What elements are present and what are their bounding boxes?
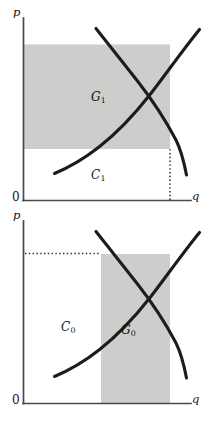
region-label-g0-sub: 0 <box>131 329 136 338</box>
panel-top-plot <box>0 0 215 215</box>
panel-top: p q 0 G1 C1 <box>0 0 215 215</box>
region-label-g1-base: G <box>91 90 101 104</box>
region-label-c1-base: C <box>91 168 100 182</box>
region-label-c0: C0 <box>61 321 75 333</box>
region-label-c0-sub: 0 <box>70 326 75 335</box>
x-axis-label: q <box>192 191 199 203</box>
region-label-g0: G0 <box>121 324 136 336</box>
supply-demand-figure: p q 0 G1 C1 p q 0 C0 G0 <box>0 0 215 429</box>
x-axis-label: q <box>192 394 199 406</box>
region-label-g1-sub: 1 <box>101 96 106 105</box>
region-label-c1-sub: 1 <box>100 174 105 183</box>
region-label-c1: C1 <box>91 169 105 181</box>
y-axis-label: p <box>13 210 20 222</box>
panel-bottom-plot <box>0 215 215 429</box>
region-label-c0-base: C <box>61 320 70 334</box>
region-label-g0-base: G <box>121 323 131 337</box>
panel-bottom: p q 0 C0 G0 <box>0 215 215 429</box>
origin-label: 0 <box>12 394 20 406</box>
y-axis-label: p <box>13 7 20 19</box>
region-label-g1: G1 <box>91 91 106 103</box>
origin-label: 0 <box>12 191 20 203</box>
